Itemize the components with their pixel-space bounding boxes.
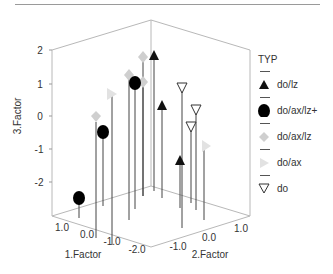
- legend-item-do: do: [258, 175, 333, 201]
- z-tick-label: 0: [37, 111, 43, 122]
- series-do-ax: [107, 88, 211, 152]
- x-axis-label: 1.Factor: [65, 249, 102, 260]
- legend-title: TYP: [258, 54, 333, 65]
- y-tick-label: 0.0: [202, 232, 216, 243]
- z-tick-label: 2: [37, 45, 43, 56]
- z-tick-label: 1: [37, 79, 43, 90]
- triangle-right-icon: [258, 155, 272, 169]
- axis-box: [52, 20, 250, 247]
- z-tick-label: -1: [35, 144, 44, 155]
- legend-item-do-ax: do/ax: [258, 149, 333, 175]
- triangle-down-open-icon: [258, 181, 272, 195]
- legend-item-do-ax-lz: do/ax/lz: [258, 123, 333, 149]
- diamond-icon: [258, 129, 272, 143]
- legend-item-do-ax-lz-plus: do/ax/lz+: [258, 97, 333, 123]
- z-axis-label: 3.Factor: [12, 97, 23, 134]
- x-tick-label: 1.0: [55, 222, 69, 233]
- circle-icon: [258, 103, 272, 117]
- legend: TYP do/lz do/ax/lz+ do/ax/lz do/ax do: [258, 54, 333, 201]
- x-tick-label: 0.0: [80, 229, 94, 240]
- series-do: [177, 83, 201, 132]
- z-tick-label: -2: [35, 177, 44, 188]
- triangle-up-icon: [258, 77, 272, 91]
- x-tick-label: -2.0: [128, 244, 146, 255]
- y-tick-label: 1.0: [234, 223, 248, 234]
- y-axis-label: 2.Factor: [192, 249, 229, 260]
- y-tick-label: -1.0: [169, 241, 187, 252]
- legend-item-do-lz: do/lz: [258, 71, 333, 97]
